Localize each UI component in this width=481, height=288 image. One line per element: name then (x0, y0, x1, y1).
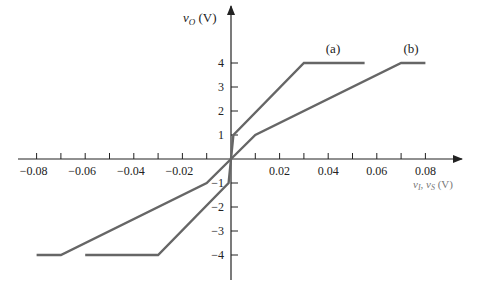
transfer-characteristic-chart: −0.08−0.06−0.04−0.020.020.040.060.08 432… (0, 0, 481, 288)
y-tick-label: 4 (218, 56, 224, 70)
x-tick-label: −0.02 (166, 164, 194, 178)
series-label-a: (a) (326, 41, 340, 56)
x-axis-title: vI, vS (V) (413, 178, 453, 192)
y-axis-title: vO (V) (183, 10, 217, 27)
series-label-b: (b) (403, 41, 418, 56)
y-axis-title-unit: (V) (195, 10, 216, 25)
x-tick-labels: −0.08−0.06−0.04−0.020.020.040.060.08 (20, 164, 436, 178)
x-tick-label: −0.08 (20, 164, 48, 178)
x-tick-label: 0.08 (415, 164, 436, 178)
y-tick-label: 2 (218, 104, 224, 118)
x-tick-label: 0.02 (269, 164, 290, 178)
y-tick-label: 1 (218, 128, 224, 142)
x-tick-label: 0.04 (318, 164, 339, 178)
axes (18, 6, 462, 280)
x-tick-label: 0.06 (366, 164, 387, 178)
x-tick-label: −0.04 (117, 164, 145, 178)
y-tick-label: −4 (211, 248, 224, 262)
y-tick-label: −2 (211, 200, 224, 214)
y-tick-label: 3 (218, 80, 224, 94)
y-tick-label: −3 (211, 224, 224, 238)
x-axis-title-unit: (V) (435, 178, 453, 191)
x-tick-label: −0.06 (68, 164, 96, 178)
